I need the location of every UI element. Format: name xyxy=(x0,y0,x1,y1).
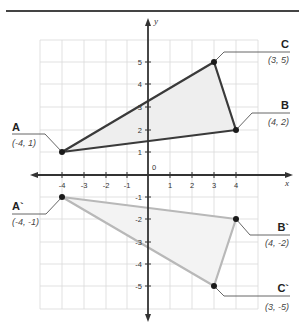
x-tick: -4 xyxy=(59,181,66,190)
point-a-prime xyxy=(59,194,65,200)
x-tick: -2 xyxy=(103,181,110,190)
x-tick: -1 xyxy=(124,181,131,190)
y-axis xyxy=(145,18,151,322)
y-tick: -4 xyxy=(135,260,142,269)
point-c xyxy=(211,59,217,65)
y-axis-label: y xyxy=(153,16,158,26)
y-tick: 1 xyxy=(138,148,142,157)
x-tick: 2 xyxy=(190,181,194,190)
label-c-prime: C` xyxy=(277,282,289,294)
y-tick: -5 xyxy=(135,282,142,291)
x-tick: 3 xyxy=(212,181,216,190)
label-a-prime: A` xyxy=(12,200,24,212)
label-c: C xyxy=(281,38,289,50)
label-a: A xyxy=(12,121,20,133)
y-tick: -2 xyxy=(135,215,142,224)
x-tick: 4 xyxy=(234,181,238,190)
y-tick: 3 xyxy=(138,103,142,112)
coord-b: (4, 2) xyxy=(268,117,289,127)
point-b xyxy=(233,127,239,133)
coord-a: (-4, 1) xyxy=(12,138,36,148)
x-tick: -3 xyxy=(81,181,88,190)
point-b-prime xyxy=(233,216,239,222)
y-tick: 5 xyxy=(138,58,142,67)
point-a xyxy=(59,149,65,155)
coord-b-prime: (4, -2) xyxy=(265,238,289,248)
leader-lines xyxy=(12,52,290,296)
origin-label: 0 xyxy=(152,163,156,172)
y-tick: -1 xyxy=(135,193,142,202)
label-b-prime: B` xyxy=(277,221,289,233)
y-tick: 4 xyxy=(138,80,142,89)
x-axis xyxy=(30,172,293,178)
coordinate-plane: -4 -3 -2 -1 1 2 3 4 1 2 3 4 5 -1 -2 -3 -… xyxy=(0,0,299,327)
x-axis-label: x xyxy=(284,178,289,188)
coord-c: (3, 5) xyxy=(268,55,289,65)
coord-c-prime: (3, -5) xyxy=(265,302,289,312)
y-tick: -3 xyxy=(135,238,142,247)
label-b: B xyxy=(281,99,289,111)
point-c-prime xyxy=(211,283,217,289)
coord-a-prime: (-4, -1) xyxy=(12,217,39,227)
x-tick: 1 xyxy=(168,181,172,190)
y-tick: 2 xyxy=(138,126,142,135)
